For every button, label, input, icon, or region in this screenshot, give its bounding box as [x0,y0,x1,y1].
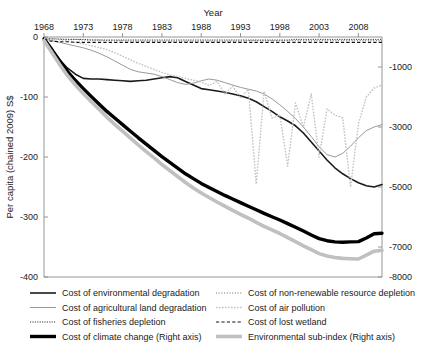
y-tick-label-left: -100 [20,92,38,102]
x-tick-label: 1983 [152,22,172,32]
legend-item-label: Environmental sub-index (Right axis) [248,332,395,342]
chart-figure: Year196819731978198319881993199820032008… [0,0,434,353]
x-tick-label: 2003 [309,22,329,32]
legend-item[interactable]: Cost of air pollution [216,303,325,313]
legend-item[interactable]: Cost of non-renewable resource depletion [216,288,415,298]
legend-item-label: Cost of non-renewable resource depletion [248,288,415,298]
y-tick-label-right: -3000 [389,122,412,132]
legend-item[interactable]: Cost of lost wetland [216,317,327,327]
legend-item-label: Cost of air pollution [248,303,325,313]
x-tick-label: 2008 [348,22,368,32]
legend-item[interactable]: Cost of climate change (Right axis) [30,332,202,342]
legend-layer: Cost of environmental degradationCost of… [30,288,415,342]
legend-item-label: Cost of environmental degradation [62,288,200,298]
x-tick-label: 1988 [191,22,211,32]
y-tick-label-left: -400 [20,272,38,282]
x-tick-label: 1973 [73,22,93,32]
y-tick-label-left: 0 [33,32,38,42]
y-tick-label-right: -7000 [389,242,412,252]
legend-item-label: Cost of agricultural land degradation [62,303,207,313]
x-tick-label: 1978 [113,22,133,32]
legend-item-label: Cost of climate change (Right axis) [62,332,202,342]
legend-item[interactable]: Cost of environmental degradation [30,288,200,298]
legend-item[interactable]: Cost of fisheries depletion [30,317,166,327]
y-tick-label-right: -8000 [389,272,412,282]
y-axis-title-left: Per capita (chained 2009) S$ [4,95,15,219]
legend-item-label: Cost of fisheries depletion [62,317,166,327]
x-tick-label: 1968 [34,22,54,32]
x-tick-label: 1998 [270,22,290,32]
y-tick-label-left: -200 [20,152,38,162]
chart-canvas: Year196819731978198319881993199820032008… [0,0,434,353]
x-tick-label: 1993 [230,22,250,32]
legend-item-label: Cost of lost wetland [248,317,327,327]
x-axis-title: Year [203,7,222,18]
y-tick-label-right: -1000 [389,62,412,72]
y-tick-label-left: -300 [20,212,38,222]
legend-item[interactable]: Environmental sub-index (Right axis) [216,332,395,342]
y-tick-label-right: -5000 [389,182,412,192]
legend-item[interactable]: Cost of agricultural land degradation [30,303,207,313]
